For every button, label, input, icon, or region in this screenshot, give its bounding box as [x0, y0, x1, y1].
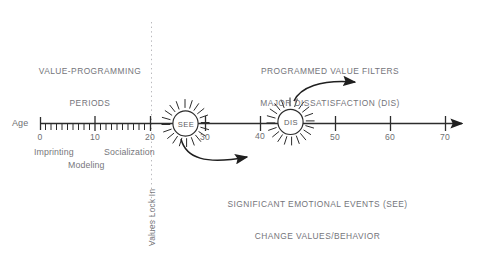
value-programming-periods-title: VALUE-PROGRAMMING PERIODS — [20, 44, 160, 130]
axis-tick-label-70: 70 — [433, 132, 457, 143]
stage-label-modeling: Modeling — [68, 160, 105, 171]
dis-event-label: DIS — [271, 118, 311, 128]
axis-tick-label-30: 30 — [193, 132, 217, 143]
see-event-label: SEE — [166, 120, 206, 130]
caption-line2: CHANGE VALUES/BEHAVIOR — [215, 231, 420, 242]
axis-tick-label-50: 50 — [323, 132, 347, 143]
values-lock-in-label: Values Lock In — [148, 189, 159, 246]
programmed-value-filters-title: PROGRAMMED VALUE FILTERS MAJOR DISSATISF… — [240, 44, 420, 130]
axis-tick-label-40: 40 — [248, 131, 272, 142]
significant-emotional-events-caption: SIGNIFICANT EMOTIONAL EVENTS (SEE) CHANG… — [215, 177, 420, 255]
stage-label-imprinting: Imprinting — [34, 147, 74, 158]
title-right-line2: MAJOR DISSATISFACTION (DIS) — [240, 98, 420, 109]
stage-label-socialization: Socialization — [104, 147, 155, 158]
axis-tick-label-20: 20 — [138, 132, 162, 143]
title-right-line1: PROGRAMMED VALUE FILTERS — [240, 66, 420, 77]
axis-tick-label-60: 60 — [378, 132, 402, 143]
title-left-line2: PERIODS — [20, 98, 160, 109]
title-left-line1: VALUE-PROGRAMMING — [20, 66, 160, 77]
diagram-canvas: VALUE-PROGRAMMING PERIODS PROGRAMMED VAL… — [0, 0, 479, 255]
axis-tick-label-10: 10 — [83, 132, 107, 143]
caption-line1: SIGNIFICANT EMOTIONAL EVENTS (SEE) — [215, 199, 420, 210]
age-axis-label: Age — [12, 118, 28, 130]
axis-tick-label-0: 0 — [28, 132, 52, 143]
